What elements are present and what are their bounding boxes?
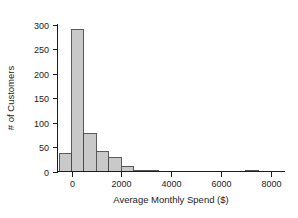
histogram-bar <box>96 152 108 172</box>
x-tick-label: 2000 <box>111 179 131 189</box>
histogram-bar <box>59 154 71 172</box>
y-axis-title: # of Customers <box>5 66 16 131</box>
histogram-bar <box>72 29 84 171</box>
histogram-bars <box>59 29 258 171</box>
histogram-figure: 02000400060008000 050100150200250300 Ave… <box>0 0 298 218</box>
histogram-plot: 02000400060008000 050100150200250300 Ave… <box>0 0 298 218</box>
y-tick-label: 0 <box>44 168 49 178</box>
histogram-bar <box>109 158 121 172</box>
y-tick-label: 100 <box>34 119 49 129</box>
y-tick-label: 300 <box>34 21 49 31</box>
x-tick-label: 4000 <box>161 179 181 189</box>
histogram-bar <box>84 134 96 172</box>
y-tick-label: 150 <box>34 94 49 104</box>
y-tick-label: 50 <box>39 143 49 153</box>
histogram-bar <box>121 166 133 171</box>
x-axis-ticks: 02000400060008000 <box>70 172 282 189</box>
y-axis-ticks: 050100150200250300 <box>34 21 58 178</box>
x-axis-title: Average Monthly Spend ($) <box>113 194 228 205</box>
x-tick-label: 6000 <box>211 179 231 189</box>
y-tick-label: 200 <box>34 70 49 80</box>
y-tick-label: 250 <box>34 45 49 55</box>
x-tick-label: 8000 <box>261 179 281 189</box>
x-tick-label: 0 <box>70 179 75 189</box>
